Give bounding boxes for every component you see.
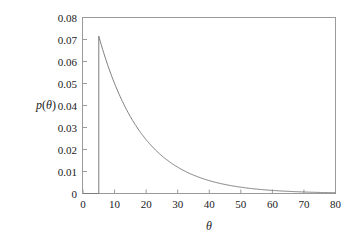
- y-tick-label: 0.03: [58, 122, 78, 134]
- x-tick-label: 0: [80, 198, 86, 210]
- y-tick-label: 0.02: [58, 144, 77, 156]
- y-tick-labels: 00.010.020.030.040.050.060.070.08: [58, 12, 78, 200]
- y-axis-title: p(θ): [35, 98, 56, 112]
- x-tick-label: 70: [298, 198, 310, 210]
- y-tick-label: 0.06: [58, 56, 78, 68]
- y-tick-label: 0.05: [58, 78, 78, 90]
- y-tick-label: 0: [72, 188, 78, 200]
- y-tick-label: 0.01: [58, 166, 77, 178]
- chart-figure: 00.010.020.030.040.050.060.070.08 010203…: [0, 0, 363, 242]
- x-tick-label: 40: [204, 198, 216, 210]
- y-tick-label: 0.08: [58, 12, 78, 24]
- y-tick-label: 0.04: [58, 100, 78, 112]
- x-tick-label: 60: [267, 198, 279, 210]
- x-tick-label: 20: [141, 198, 153, 210]
- x-tick-label: 10: [109, 198, 121, 210]
- x-axis-title: θ: [206, 219, 212, 233]
- exponential-density-plot: 00.010.020.030.040.050.060.070.08 010203…: [0, 0, 363, 242]
- y-tick-label: 0.07: [58, 34, 78, 46]
- x-tick-labels: 01020304050607080: [80, 198, 341, 210]
- x-tick-label: 50: [235, 198, 247, 210]
- x-tick-label: 30: [172, 198, 184, 210]
- x-tick-label: 80: [330, 198, 342, 210]
